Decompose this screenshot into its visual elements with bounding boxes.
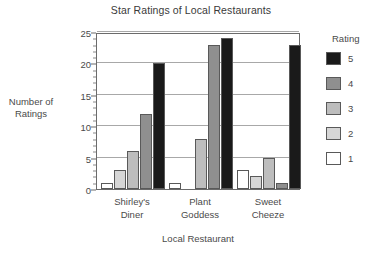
chart-title: Star Ratings of Local Restaurants (0, 4, 382, 16)
legend-swatch (326, 102, 341, 115)
bar-group (97, 34, 165, 189)
y-tick-label: 15 (80, 90, 91, 101)
legend-item[interactable]: 2 (326, 126, 378, 140)
bars-layer (97, 34, 299, 189)
x-tick-label-line: Sweet (252, 196, 285, 209)
legend-label: 5 (348, 53, 353, 64)
legend-item[interactable]: 3 (326, 101, 378, 115)
bar-group (233, 34, 301, 189)
bar-chart: Star Ratings of Local Restaurants Number… (0, 0, 382, 258)
gridline (97, 31, 299, 32)
x-tick-label-line: Plant (181, 196, 219, 209)
bar (114, 170, 127, 189)
x-axis-title: Local Restaurant (96, 233, 300, 244)
bar (101, 183, 114, 189)
x-tick-label-line: Diner (114, 209, 150, 222)
bar (208, 45, 221, 189)
bar (263, 158, 276, 189)
bar (237, 170, 250, 189)
legend-item[interactable]: 1 (326, 151, 378, 165)
y-axis-title-line-2: Ratings (2, 108, 60, 120)
y-axis-title: Number of Ratings (2, 96, 60, 120)
legend-label: 4 (348, 78, 353, 89)
legend-swatch (326, 127, 341, 140)
x-tick-label: SweetCheeze (252, 196, 285, 221)
x-tick-label: PlantGoddess (181, 196, 219, 221)
bar-group (165, 34, 233, 189)
legend-swatch (326, 152, 341, 165)
legend-title: Rating (332, 33, 378, 44)
legend-swatch (326, 77, 341, 90)
bar (289, 45, 302, 189)
bar (169, 183, 182, 189)
x-tick-label-line: Goddess (181, 209, 219, 222)
x-tick-label: Shirley'sDiner (114, 196, 150, 221)
x-tick-label-line: Shirley's (114, 196, 150, 209)
x-axis-tick-labels: Shirley'sDinerPlantGoddessSweetCheeze (96, 196, 300, 230)
bar (153, 63, 166, 189)
y-tick-label: 10 (80, 122, 91, 133)
bar (221, 38, 234, 189)
legend-item[interactable]: 5 (326, 51, 378, 65)
legend-label: 2 (348, 128, 353, 139)
legend-label: 3 (348, 103, 353, 114)
bar (250, 176, 263, 189)
legend-swatch (326, 52, 341, 65)
y-tick-label: 25 (80, 28, 91, 39)
bar (276, 183, 289, 189)
y-axis-title-line-1: Number of (2, 96, 60, 108)
plot-area (96, 33, 300, 190)
y-axis: 0510152025 (60, 25, 96, 198)
bar (127, 151, 140, 189)
legend-item[interactable]: 4 (326, 76, 378, 90)
bar (140, 114, 153, 189)
bar (195, 139, 208, 189)
legend-label: 1 (348, 153, 353, 164)
x-tick-label-line: Cheeze (252, 209, 285, 222)
legend: Rating 54321 (326, 33, 378, 176)
y-tick-label: 20 (80, 59, 91, 70)
